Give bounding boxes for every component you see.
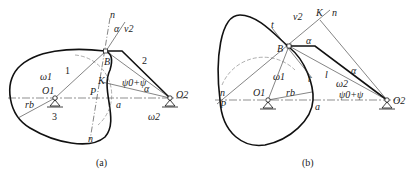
svg-text:l: l (325, 69, 328, 80)
svg-text:α: α (306, 35, 312, 46)
label-n-top: n (110, 9, 115, 20)
svg-text:α: α (144, 83, 150, 94)
figure-b: t v2 K n α B ω1 t l α ω2 n P O1 rb a ψ0+… (215, 7, 405, 169)
svg-text:B: B (104, 56, 110, 67)
figure-a: n α v2 B 2 ω1 1 K ψ0+ψ α O1 P a O2 rb 3 … (8, 9, 190, 169)
svg-text:α: α (351, 65, 357, 76)
svg-text:K: K (97, 75, 106, 86)
svg-text:P: P (219, 99, 226, 110)
svg-text:O1: O1 (253, 87, 265, 98)
caption-b: (b) (302, 157, 314, 169)
svg-text:α: α (114, 23, 120, 34)
svg-text:ω1: ω1 (40, 71, 52, 82)
svg-text:rb: rb (25, 99, 34, 110)
svg-text:3: 3 (52, 111, 57, 122)
svg-text:O2: O2 (393, 95, 405, 106)
svg-text:a: a (116, 99, 121, 110)
cam-follower-diagrams: n α v2 B 2 ω1 1 K ψ0+ψ α O1 P a O2 rb 3 … (0, 0, 409, 177)
svg-text:ω2: ω2 (336, 78, 348, 89)
svg-text:P: P (89, 86, 96, 97)
svg-text:t: t (308, 73, 311, 84)
svg-text:rb: rb (286, 87, 295, 98)
svg-text:O1: O1 (42, 85, 54, 96)
svg-text:ω2: ω2 (148, 111, 160, 122)
svg-text:B: B (277, 43, 283, 54)
svg-text:a: a (315, 101, 320, 112)
svg-text:K: K (315, 7, 324, 18)
svg-text:n: n (332, 7, 337, 18)
svg-text:n: n (220, 87, 225, 98)
svg-text:ω1: ω1 (273, 71, 285, 82)
svg-text:ψ0+ψ: ψ0+ψ (339, 89, 364, 100)
svg-text:n: n (88, 133, 93, 144)
svg-text:O2: O2 (176, 89, 188, 100)
svg-text:2: 2 (142, 55, 147, 66)
svg-text:1: 1 (65, 65, 70, 76)
cam-profile-a (10, 49, 112, 143)
svg-text:v2: v2 (293, 11, 302, 22)
caption-a: (a) (96, 157, 107, 169)
svg-text:t: t (271, 19, 274, 30)
svg-text:v2: v2 (124, 23, 133, 34)
cam-profile-b (218, 15, 313, 145)
